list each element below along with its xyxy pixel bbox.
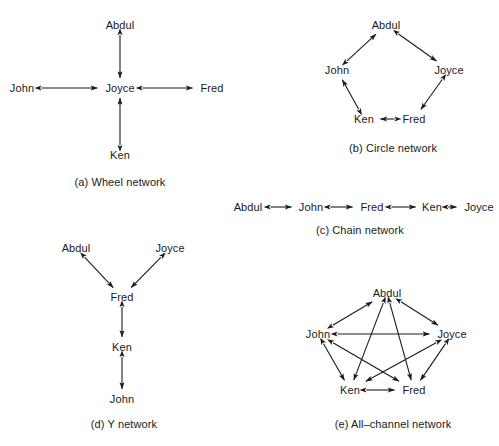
- caption-wheel: (a) Wheel network: [75, 176, 166, 188]
- edge-all-channel-abdul-ken: [354, 303, 384, 380]
- node-label-circle-ken: Ken: [354, 113, 374, 125]
- node-label-y-ken: Ken: [112, 341, 132, 353]
- node-label-chain-joyce: Joyce: [464, 201, 493, 213]
- node-label-wheel-ken: Ken: [110, 149, 130, 161]
- network-edges-layer: [0, 0, 499, 446]
- edge-all-channel-john-ken: [324, 344, 345, 381]
- node-label-chain-abdul: Abdul: [234, 201, 263, 213]
- node-label-wheel-abdul: Abdul: [106, 19, 135, 31]
- edge-circle-john-abdul: [347, 34, 376, 61]
- node-label-wheel-fred: Fred: [200, 82, 223, 94]
- node-label-chain-ken: Ken: [422, 201, 442, 213]
- node-label-y-joyce: Joyce: [155, 242, 184, 254]
- node-label-all-channel-joyce: Joyce: [437, 328, 466, 340]
- node-label-all-channel-fred: Fred: [402, 384, 425, 396]
- caption-y: (d) Y network: [91, 418, 157, 430]
- edge-circle-abdul-joyce: [399, 34, 437, 61]
- node-label-chain-john: John: [299, 201, 323, 213]
- edge-all-channel-john-abdul: [333, 302, 372, 325]
- edge-circle-ken-john: [342, 80, 358, 110]
- node-label-circle-john: John: [325, 64, 349, 76]
- edge-all-channel-abdul-joyce: [401, 302, 438, 325]
- node-label-chain-fred: Fred: [360, 201, 383, 213]
- caption-all-channel: (e) All–channel network: [335, 418, 452, 430]
- node-label-all-channel-john: John: [306, 328, 330, 340]
- node-label-circle-abdul: Abdul: [372, 19, 401, 31]
- node-label-y-abdul: Abdul: [62, 242, 91, 254]
- node-label-wheel-john: John: [10, 82, 34, 94]
- node-label-y-fred: Fred: [110, 291, 133, 303]
- node-label-circle-joyce: Joyce: [434, 64, 463, 76]
- edge-y-joyce-fred: [131, 257, 161, 287]
- node-label-circle-fred: Fred: [402, 113, 425, 125]
- node-label-all-channel-abdul: Abdul: [373, 287, 402, 299]
- node-label-y-john: John: [110, 393, 134, 405]
- edge-all-channel-abdul-fred: [390, 303, 411, 380]
- node-label-all-channel-ken: Ken: [340, 384, 360, 396]
- figure-canvas: AbdulJohnJoyceFredKen(a) Wheel networkAb…: [0, 0, 499, 446]
- edge-all-channel-joyce-ken: [366, 343, 436, 382]
- edge-y-abdul-fred: [85, 257, 114, 287]
- node-label-wheel-joyce: Joyce: [105, 82, 134, 94]
- edge-circle-joyce-fred: [421, 80, 442, 110]
- caption-chain: (c) Chain network: [316, 224, 404, 236]
- caption-circle: (b) Circle network: [349, 142, 437, 154]
